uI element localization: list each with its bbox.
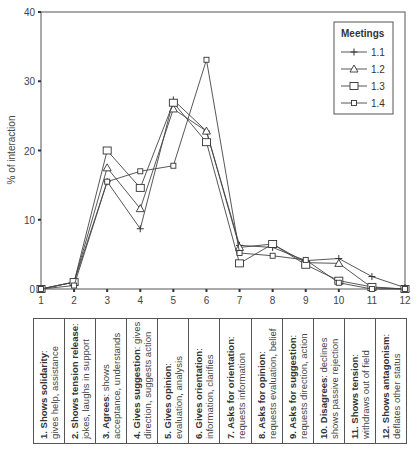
x-tick-mark — [73, 289, 75, 292]
category-cell: 11. Shows tension:withdraws out of field — [345, 319, 376, 443]
legend-marker — [352, 101, 357, 106]
legend-label: 1.2 — [371, 64, 385, 75]
legend: Meetings 1.11.21.31.4 — [334, 22, 393, 114]
category-sep: : — [380, 334, 391, 337]
category-text: 3. Agrees: showsacceptance, understands — [100, 321, 122, 439]
x-tick-label: 10 — [333, 295, 345, 306]
legend-label: 1.1 — [371, 47, 385, 58]
data-point — [368, 273, 375, 280]
category-cell: 9. Asks for suggestion:requests directio… — [283, 319, 314, 443]
category-desc: requests direction, action — [298, 333, 309, 439]
data-point — [336, 280, 341, 285]
series-1.2 — [37, 105, 409, 292]
category-title: 4. Gives suggestion — [131, 349, 142, 439]
category-title: 8. Asks for opinion — [256, 354, 267, 439]
category-label: 2. Shows tension release:jokes, laughs i… — [69, 321, 91, 439]
category-text: 1. Shows solidarity:gives help, assistan… — [38, 321, 60, 439]
data-point — [269, 240, 277, 247]
category-text: 4. Gives suggestion: givesdirection, sug… — [131, 321, 153, 439]
category-sep: : — [38, 350, 49, 353]
category-text: 5. Gives opinion:evaluation, analysis — [162, 321, 184, 439]
category-label: 12. Shows antagonism:deflates other stat… — [380, 321, 402, 439]
category-title: 5. Gives opinion — [162, 366, 173, 439]
x-tick-label: 3 — [104, 295, 110, 306]
category-title: 9. Asks for suggestion — [287, 337, 298, 439]
category-desc: evaluation, analysis — [173, 356, 184, 439]
category-desc: deflates other status — [391, 353, 402, 439]
series-line — [41, 109, 405, 289]
category-text: 12. Shows antagonism:deflates other stat… — [380, 321, 402, 439]
data-point — [136, 184, 144, 191]
x-tick-mark — [106, 289, 108, 292]
category-title: 1. Shows solidarity — [38, 353, 49, 439]
y-tick-label: 0 — [29, 284, 35, 295]
line-chart: % of interaction 010203040 1234567891011… — [0, 0, 418, 318]
category-cell: 10. Disagrees: declinesshows passive rej… — [314, 319, 345, 443]
data-point — [105, 179, 110, 184]
x-tick-label: 11 — [367, 295, 378, 306]
category-desc: direction, suggests action — [142, 332, 153, 439]
category-label: 3. Agrees: showsacceptance, understands — [100, 321, 122, 439]
legend-label: 1.4 — [371, 98, 385, 109]
category-title: 6. Gives orientation — [193, 351, 204, 439]
category-cell: 3. Agrees: showsacceptance, understands — [96, 319, 127, 443]
category-cell: 7. Asks for orientation:requests informa… — [220, 319, 251, 443]
category-sep: : — [225, 336, 236, 339]
category-label: 1. Shows solidarity:gives help, assistan… — [38, 321, 60, 439]
data-point — [237, 250, 242, 255]
x-tick-label: 12 — [399, 295, 411, 306]
data-point — [39, 287, 44, 292]
x-tick-label: 5 — [171, 295, 177, 306]
category-cell: 2. Shows tension release:jokes, laughs i… — [65, 319, 96, 443]
data-point — [204, 57, 209, 62]
category-title: 10. Disagrees — [318, 378, 329, 439]
category-desc: acceptance, understands — [111, 333, 122, 439]
y-tick-mark — [38, 11, 41, 13]
data-point — [171, 163, 176, 168]
category-title: 11. Shows tension — [349, 357, 360, 439]
y-axis: 010203040 — [24, 7, 41, 295]
y-tick-mark — [38, 150, 41, 152]
category-label: 8. Asks for opinion:requests evaluation,… — [256, 321, 278, 439]
x-tick-label: 8 — [270, 295, 276, 306]
x-tick-label: 4 — [137, 295, 143, 306]
category-text: 6. Gives orientation:information, clarif… — [193, 321, 215, 439]
category-title: 7. Asks for orientation — [225, 339, 236, 439]
category-label: 11. Shows tension:withdraws out of field — [349, 321, 371, 439]
legend-title: Meetings — [341, 28, 385, 39]
x-tick-mark — [205, 289, 207, 292]
data-point — [72, 283, 77, 288]
category-text: 10. Disagrees: declinesshows passive rej… — [318, 321, 340, 439]
category-text: 11. Shows tension:withdraws out of field — [349, 321, 371, 439]
data-point — [403, 287, 408, 292]
category-desc: requests evaluation, belief — [267, 329, 278, 439]
category-desc: withdraws out of field — [360, 350, 371, 439]
series-line — [41, 103, 405, 289]
series-1.3 — [37, 99, 409, 292]
category-sep: : — [287, 335, 298, 338]
category-label: 9. Asks for suggestion:requests directio… — [287, 321, 309, 439]
category-cell: 4. Gives suggestion: givesdirection, sug… — [127, 319, 158, 443]
category-cell: 12. Shows antagonism:deflates other stat… — [376, 319, 406, 443]
x-tick-mark — [239, 289, 241, 292]
y-tick-mark — [38, 219, 41, 221]
category-title: 2. Shows tension release — [69, 326, 80, 439]
x-tick-label: 9 — [303, 295, 309, 306]
y-tick-label: 20 — [24, 146, 36, 157]
category-sep: : — [69, 323, 80, 326]
category-sep: : — [256, 351, 267, 354]
data-point — [169, 99, 177, 106]
x-tick-mark — [172, 289, 174, 292]
category-cell: 6. Gives orientation:information, clarif… — [189, 319, 220, 443]
category-desc: information, clarifies — [204, 355, 215, 439]
category-label: 7. Asks for orientation:requests informa… — [225, 321, 247, 439]
legend-marker — [350, 83, 358, 90]
data-point — [137, 225, 144, 232]
legend-label: 1.3 — [371, 81, 385, 92]
y-axis-title: % of interaction — [6, 116, 17, 185]
category-cell: 1. Shows solidarity:gives help, assistan… — [34, 319, 65, 443]
category-cell: 5. Gives opinion:evaluation, analysis — [158, 319, 189, 443]
data-point — [270, 253, 275, 258]
category-label: 5. Gives opinion:evaluation, analysis — [162, 321, 184, 439]
category-label: 6. Gives orientation:information, clarif… — [193, 321, 215, 439]
